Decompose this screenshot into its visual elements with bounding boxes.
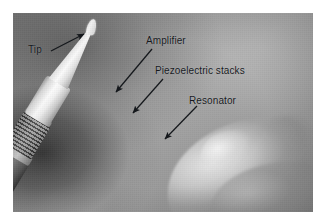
photograph	[13, 13, 313, 212]
figure-ultrasonic-probe: Tip Amplifier Piezoelectric stacks Reson…	[0, 0, 323, 223]
photo-grain	[13, 13, 313, 212]
